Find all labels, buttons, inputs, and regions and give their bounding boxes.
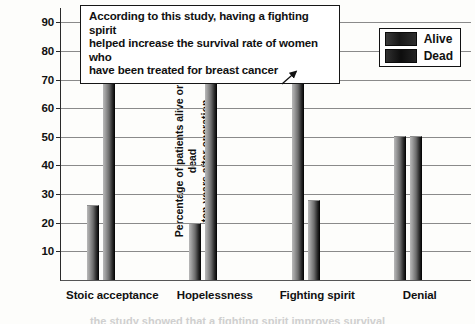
legend: Alive Dead [379, 28, 461, 67]
x-axis-label: Stoic acceptance [66, 289, 158, 301]
y-tick-mark [56, 137, 61, 138]
x-axis-label: Denial [403, 289, 437, 301]
legend-label-alive: Alive [424, 32, 453, 46]
legend-item-dead: Dead [385, 49, 453, 63]
alive-swatch-icon [385, 32, 417, 46]
annotation-text: According to this study, having a fighti… [89, 10, 332, 78]
y-tick-mark [56, 108, 61, 109]
y-tick-label: 20 [42, 217, 54, 229]
legend-item-alive: Alive [385, 32, 453, 46]
bar-alive-hopelessness [189, 223, 201, 280]
gridline [61, 108, 471, 109]
y-tick-mark [56, 51, 61, 52]
dead-swatch-icon [385, 49, 417, 63]
y-tick-mark [56, 22, 61, 23]
legend-label-dead: Dead [424, 49, 453, 63]
bar-dead-stoic-acceptance [103, 60, 115, 280]
bar-alive-stoic-acceptance [87, 205, 99, 280]
y-tick-label: 60 [42, 102, 54, 114]
annotation-callout: According to this study, having a fighti… [80, 5, 340, 84]
bar-dead-denial [410, 136, 422, 280]
y-tick-mark [56, 194, 61, 195]
bar-dead-fighting-spirit [308, 200, 320, 280]
y-tick-label: 10 [42, 245, 54, 257]
y-tick-mark [56, 251, 61, 252]
y-tick-mark [56, 80, 61, 81]
y-tick-label: 30 [42, 188, 54, 200]
y-tick-label: 70 [42, 74, 54, 86]
y-tick-mark [56, 165, 61, 166]
y-tick-label: 40 [42, 159, 54, 171]
x-axis-label: Hopelessness [177, 289, 253, 301]
y-tick-mark [56, 223, 61, 224]
y-tick-label: 80 [42, 45, 54, 57]
x-axis-label: Fighting spirit [280, 289, 355, 301]
bottom-caption: the study showed that a fighting spirit … [0, 315, 475, 324]
y-tick-label: 90 [42, 16, 54, 28]
bar-alive-denial [394, 136, 406, 280]
y-tick-label: 50 [42, 131, 54, 143]
bar-alive-fighting-spirit [292, 74, 304, 280]
